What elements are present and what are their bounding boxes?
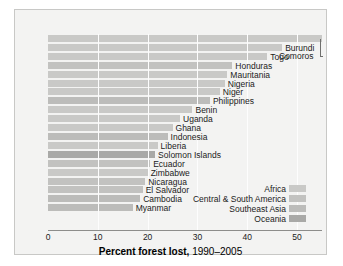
bar-row [48,160,322,167]
bar-label-mauritania: Mauritania [230,71,270,79]
bar-label-cambodia: Cambodia [143,195,182,203]
x-tick-label-40: 40 [243,232,252,242]
legend-label-oceania: Oceania [254,214,286,224]
x-tick-label-50: 50 [292,232,301,242]
bar-label-uganda: Uganda [183,115,213,123]
bar-label-niger: Niger [223,88,243,96]
legend-swatch-sea [289,205,306,212]
x-tick-label-10: 10 [93,232,102,242]
bar-indonesia [48,133,168,140]
bar-solomon-islands [48,151,155,158]
bar-row [48,44,322,51]
bar-nicaragua [48,178,145,185]
bar-philippines [48,97,210,104]
legend-label-sea: Southeast Asia [229,204,286,214]
bar-ecuador [48,160,150,167]
bar-ghana [48,124,173,131]
bar-el-salvador [48,186,143,193]
x-tick-label-0: 0 [46,232,51,242]
bar-label-indonesia: Indonesia [171,133,208,141]
legend-label-africa: Africa [264,184,286,194]
bar-label-zimbabwe: Zimbabwe [151,169,190,177]
bar-benin [48,106,192,113]
chart-legend: AfricaCentral & South AmericaSoutheast A… [193,184,306,224]
bar-cambodia [48,195,140,202]
x-tick-label-30: 30 [193,232,202,242]
chart-frame: BurundiTogoHondurasMauritaniaNigeriaNige… [14,9,327,255]
legend-item-africa: Africa [193,184,306,193]
x-axis-line [48,230,322,231]
chart-title-light: 1990–2005 [192,246,242,257]
legend-item-csa: Central & South America [193,194,306,203]
legend-item-sea: Southeast Asia [193,204,306,213]
bar-honduras [48,62,232,69]
bar-uganda [48,115,180,122]
bar-row [48,35,322,42]
gridline-10 [98,34,99,230]
bar-comoros [48,35,322,42]
bar-label-honduras: Honduras [235,62,272,70]
chart-title-bold: Percent forest lost, [99,246,190,257]
bar-label-myanmar: Myanmar [136,204,171,212]
bar-togo [48,53,267,60]
bar-row [48,80,322,87]
legend-item-oceania: Oceania [193,214,306,223]
legend-label-csa: Central & South America [193,194,286,204]
bar-row [48,62,322,69]
chart-figure: BurundiTogoHondurasMauritaniaNigeriaNige… [0,0,343,266]
chart-title: Percent forest lost, 1990–2005 [15,246,326,257]
bar-label-ghana: Ghana [176,124,202,132]
bar-label-liberia: Liberia [161,142,187,150]
bar-row [48,71,322,78]
bar-label-benin: Benin [195,106,217,114]
callout-leader-line [320,39,323,57]
bar-label-ecuador: Ecuador [153,160,185,168]
bar-label-el-salvador: El Salvador [146,186,189,194]
bar-liberia [48,142,158,149]
bar-myanmar [48,204,133,211]
bar-label-solomon-islands: Solomon Islands [158,151,221,159]
bar-label-philippines: Philippines [213,97,254,105]
legend-swatch-csa [289,195,306,202]
bar-row [48,88,322,95]
bar-niger [48,88,220,95]
x-tick-label-20: 20 [143,232,152,242]
legend-swatch-oceania [289,215,306,222]
legend-swatch-africa [289,185,306,192]
bar-label-comoros: Comoros [279,52,313,60]
bar-mauritania [48,71,227,78]
bar-row [48,106,322,113]
bar-row [48,97,322,104]
